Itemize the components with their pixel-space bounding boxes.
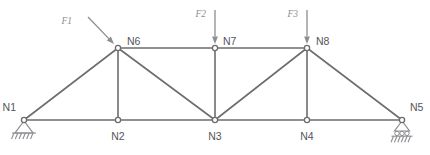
diagonal-n3-n8 bbox=[215, 48, 307, 120]
diagonal-n1-n6 bbox=[24, 48, 118, 120]
node-label-n2: N2 bbox=[111, 130, 125, 142]
node-label-n4: N4 bbox=[300, 130, 314, 142]
members-group bbox=[24, 48, 402, 120]
pinned-hatch-tick bbox=[12, 133, 15, 139]
node-label-n7: N7 bbox=[223, 35, 237, 47]
pinned-hatch-tick bbox=[19, 133, 22, 139]
node-n1 bbox=[21, 117, 26, 122]
node-n2 bbox=[115, 117, 120, 122]
truss-canvas: F1F2F3 N1N2N3N4N5N6N7N8 bbox=[0, 0, 430, 155]
node-label-n8: N8 bbox=[316, 35, 330, 47]
node-n7 bbox=[212, 45, 217, 50]
roller-wheel bbox=[400, 131, 404, 135]
force-label-f3: F3 bbox=[286, 9, 298, 19]
pinned-hatch-tick bbox=[27, 133, 30, 139]
roller-hatch-tick bbox=[408, 136, 411, 142]
pinned-hatch-tick bbox=[31, 133, 34, 139]
support-n1-pinned bbox=[12, 121, 37, 139]
roller-wheel bbox=[405, 131, 409, 135]
support-n5-roller bbox=[391, 121, 413, 142]
force-arrow-head bbox=[304, 37, 310, 45]
node-label-n3: N3 bbox=[208, 130, 222, 142]
node-n5 bbox=[399, 117, 404, 122]
force-f1: F1 bbox=[60, 16, 114, 44]
force-arrow-head bbox=[212, 37, 218, 45]
roller-hatch-tick bbox=[401, 136, 404, 142]
diagonal-n8-n5 bbox=[307, 48, 402, 120]
roller-hatch-tick bbox=[405, 136, 408, 142]
truss-diagram: F1F2F3 N1N2N3N4N5N6N7N8 bbox=[0, 0, 430, 155]
node-label-n6: N6 bbox=[127, 35, 141, 47]
force-f2: F2 bbox=[194, 9, 217, 44]
roller-hatch-tick bbox=[398, 136, 401, 142]
node-n8 bbox=[304, 45, 309, 50]
pinned-hatch-tick bbox=[15, 133, 17, 139]
roller-wheel bbox=[395, 131, 399, 135]
roller-hatch-tick bbox=[394, 136, 397, 142]
node-label-n1: N1 bbox=[3, 101, 17, 113]
diagonal-n6-n3 bbox=[118, 48, 215, 120]
force-label-f2: F2 bbox=[194, 9, 206, 19]
node-label-n5: N5 bbox=[410, 101, 424, 113]
force-f3: F3 bbox=[286, 9, 309, 44]
force-arrow-shaft bbox=[88, 17, 109, 39]
force-label-f1: F1 bbox=[60, 16, 72, 26]
roller-hatch-tick bbox=[391, 136, 394, 142]
node-n4 bbox=[304, 117, 309, 122]
nodes-group bbox=[21, 45, 404, 122]
node-n6 bbox=[115, 45, 120, 50]
node-n3 bbox=[212, 117, 217, 122]
pinned-hatch-tick bbox=[23, 133, 26, 139]
forces-group: F1F2F3 bbox=[60, 9, 309, 44]
